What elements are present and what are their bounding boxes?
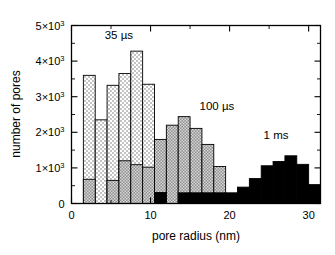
- bar-1ms-8: [249, 179, 261, 204]
- bar-35s-1: [95, 120, 107, 204]
- x-axis-label: pore radius (nm): [152, 229, 240, 243]
- bar-100s-7: [178, 117, 190, 204]
- bar-1ms-12: [297, 164, 309, 203]
- annotation-1: 100 µs: [200, 100, 235, 112]
- histogram-chart: 01×1032×1033×1034×1035×1030102030 35 µs1…: [0, 0, 335, 255]
- annotation-0: 35 µs: [105, 29, 134, 41]
- bar-1ms-2: [178, 193, 190, 204]
- y-axis-label: number of pores: [9, 70, 23, 157]
- x-tick-label: 30: [303, 209, 315, 221]
- bar-1ms-7: [238, 187, 250, 203]
- bar-1ms-11: [285, 156, 297, 204]
- bar-1ms-13: [309, 185, 321, 204]
- bars-group: [83, 51, 320, 203]
- bar-100s-2: [119, 161, 131, 204]
- bar-1ms-3: [190, 193, 202, 204]
- x-tick-label: 10: [144, 209, 156, 221]
- x-tick-label: 0: [68, 209, 74, 221]
- bar-100s-8: [190, 128, 202, 203]
- y-tick-label: 0: [58, 198, 64, 210]
- chart-figure: 01×1032×1033×1034×1035×1030102030 35 µs1…: [0, 0, 335, 255]
- y-tick-label: 5×103: [36, 19, 65, 32]
- bar-1ms-5: [214, 193, 226, 204]
- bar-100s-4: [143, 167, 155, 203]
- bar-100s-6: [166, 125, 178, 203]
- bar-100s-1: [107, 180, 119, 203]
- bar-100s-3: [131, 165, 143, 204]
- y-tick-label: 2×103: [36, 125, 65, 138]
- bar-1ms-4: [202, 193, 214, 204]
- y-tick-label: 3×103: [36, 90, 65, 103]
- bar-1ms-6: [226, 193, 238, 204]
- bar-1ms-10: [273, 161, 285, 203]
- x-tick-label: 20: [223, 209, 235, 221]
- annotation-2: 1 ms: [264, 129, 289, 141]
- y-tick-label: 1×103: [36, 161, 65, 174]
- bar-1ms-9: [261, 166, 273, 204]
- y-tick-label: 4×103: [36, 54, 65, 67]
- bar-100s-0: [83, 179, 95, 203]
- bar-1ms-0: [155, 192, 167, 203]
